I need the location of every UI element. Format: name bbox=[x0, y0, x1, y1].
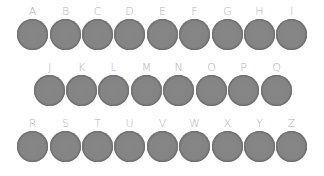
key-label: P bbox=[228, 62, 259, 74]
key-v[interactable]: V bbox=[147, 118, 178, 162]
key-c[interactable]: C bbox=[82, 6, 113, 50]
key-x[interactable]: X bbox=[212, 118, 243, 162]
key-circle-icon[interactable] bbox=[131, 75, 162, 106]
key-r[interactable]: R bbox=[17, 118, 48, 162]
key-label: B bbox=[50, 6, 81, 18]
key-m[interactable]: M bbox=[131, 62, 162, 106]
key-circle-icon[interactable] bbox=[50, 19, 81, 50]
key-row-1: A B C D E F G H bbox=[0, 6, 324, 58]
key-t[interactable]: T bbox=[82, 118, 113, 162]
key-w[interactable]: W bbox=[179, 118, 210, 162]
key-l[interactable]: L bbox=[98, 62, 129, 106]
key-label: W bbox=[179, 118, 210, 130]
key-circle-icon[interactable] bbox=[276, 19, 307, 50]
key-circle-icon[interactable] bbox=[179, 131, 210, 162]
key-n[interactable]: N bbox=[163, 62, 194, 106]
key-label: O bbox=[196, 62, 227, 74]
key-label: A bbox=[17, 6, 48, 18]
key-circle-icon[interactable] bbox=[147, 19, 178, 50]
key-z[interactable]: Z bbox=[276, 118, 307, 162]
key-label: V bbox=[147, 118, 178, 130]
key-circle-icon[interactable] bbox=[276, 131, 307, 162]
key-circle-icon[interactable] bbox=[244, 19, 275, 50]
key-label: G bbox=[212, 6, 243, 18]
key-circle-icon[interactable] bbox=[212, 131, 243, 162]
key-circle-icon[interactable] bbox=[228, 75, 259, 106]
key-label: Q bbox=[261, 62, 292, 74]
key-label: H bbox=[244, 6, 275, 18]
key-circle-icon[interactable] bbox=[261, 75, 292, 106]
key-g[interactable]: G bbox=[212, 6, 243, 50]
key-circle-icon[interactable] bbox=[66, 75, 97, 106]
key-circle-icon[interactable] bbox=[50, 131, 81, 162]
key-circle-icon[interactable] bbox=[17, 19, 48, 50]
key-circle-icon[interactable] bbox=[17, 131, 48, 162]
key-q[interactable]: Q bbox=[261, 62, 292, 106]
key-circle-icon[interactable] bbox=[34, 75, 65, 106]
key-label: I bbox=[276, 6, 307, 18]
key-label: R bbox=[17, 118, 48, 130]
key-label: X bbox=[212, 118, 243, 130]
key-label: M bbox=[131, 62, 162, 74]
key-circle-icon[interactable] bbox=[98, 75, 129, 106]
key-label: Y bbox=[244, 118, 275, 130]
key-u[interactable]: U bbox=[114, 118, 145, 162]
key-circle-icon[interactable] bbox=[244, 131, 275, 162]
key-row-3: R S T U V W X Y bbox=[0, 118, 324, 170]
key-y[interactable]: Y bbox=[244, 118, 275, 162]
key-circle-icon[interactable] bbox=[163, 75, 194, 106]
key-label: F bbox=[179, 6, 210, 18]
letter-keyboard: A B C D E F G H bbox=[0, 0, 324, 176]
key-b[interactable]: B bbox=[50, 6, 81, 50]
key-label: S bbox=[50, 118, 81, 130]
key-label: L bbox=[98, 62, 129, 74]
key-label: D bbox=[114, 6, 145, 18]
key-label: T bbox=[82, 118, 113, 130]
key-label: J bbox=[34, 62, 65, 74]
key-label: U bbox=[114, 118, 145, 130]
key-d[interactable]: D bbox=[114, 6, 145, 50]
key-circle-icon[interactable] bbox=[114, 19, 145, 50]
key-label: Z bbox=[276, 118, 307, 130]
key-circle-icon[interactable] bbox=[82, 131, 113, 162]
key-o[interactable]: O bbox=[196, 62, 227, 106]
key-row-2: J K L M N O P Q bbox=[0, 62, 324, 114]
key-label: N bbox=[163, 62, 194, 74]
key-h[interactable]: H bbox=[244, 6, 275, 50]
key-f[interactable]: F bbox=[179, 6, 210, 50]
key-label: K bbox=[66, 62, 97, 74]
key-s[interactable]: S bbox=[50, 118, 81, 162]
key-k[interactable]: K bbox=[66, 62, 97, 106]
key-circle-icon[interactable] bbox=[82, 19, 113, 50]
key-e[interactable]: E bbox=[147, 6, 178, 50]
key-p[interactable]: P bbox=[228, 62, 259, 106]
key-circle-icon[interactable] bbox=[147, 131, 178, 162]
key-circle-icon[interactable] bbox=[196, 75, 227, 106]
key-circle-icon[interactable] bbox=[212, 19, 243, 50]
key-j[interactable]: J bbox=[34, 62, 65, 106]
key-label: E bbox=[147, 6, 178, 18]
key-label: C bbox=[82, 6, 113, 18]
key-i[interactable]: I bbox=[276, 6, 307, 50]
key-circle-icon[interactable] bbox=[179, 19, 210, 50]
key-a[interactable]: A bbox=[17, 6, 48, 50]
key-circle-icon[interactable] bbox=[114, 131, 145, 162]
